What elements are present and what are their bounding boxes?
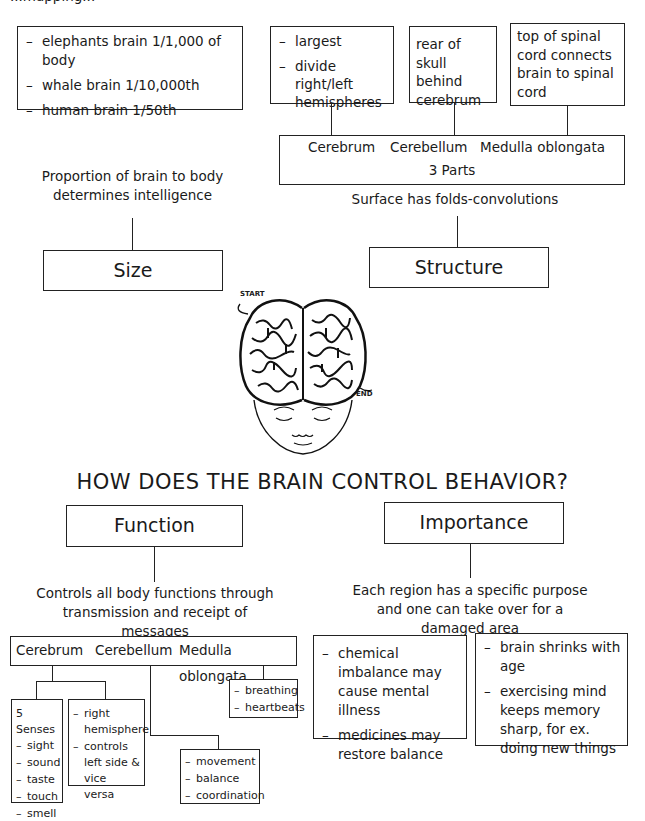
senses-box: 5 Senses sight sound taste touch smell xyxy=(11,699,63,803)
function-note: Controls all body functions through tran… xyxy=(30,584,280,641)
partial-title: ...mapping... xyxy=(10,0,95,6)
brain-illustration: START END xyxy=(228,288,378,460)
aging-list: brain shrinks with age exercising mind k… xyxy=(482,638,621,758)
connector xyxy=(454,103,455,136)
cerebrum-notes-box: largest divide right/left hemispheres xyxy=(270,26,394,104)
aging-box: brain shrinks with age exercising mind k… xyxy=(475,633,628,746)
list-item: brain shrinks with age xyxy=(482,638,621,676)
part-medulla: Medulla oblongata xyxy=(480,138,605,157)
list-item: taste xyxy=(16,772,58,788)
list-item: smell xyxy=(16,806,58,821)
surface-note: Surface has folds-convolutions xyxy=(345,190,565,209)
part-cerebellum: Cerebellum xyxy=(95,637,172,663)
list-item: exercising mind keeps memory sharp, for … xyxy=(482,682,621,758)
chemical-box: chemical imbalance may cause mental illn… xyxy=(313,635,467,739)
medulla-functions-box: breathing heartbeats xyxy=(229,679,298,718)
cerebrum-notes-list: largest divide right/left hemispheres xyxy=(277,32,387,111)
part-cerebrum: Cerebrum xyxy=(308,138,375,157)
connector xyxy=(36,681,106,682)
list-item: right hemisphere xyxy=(73,706,140,738)
list-item: sound xyxy=(16,755,58,771)
list-item: heartbeats xyxy=(234,700,293,716)
list-item: balance xyxy=(185,771,255,787)
structure-node: Structure xyxy=(369,247,549,288)
connector xyxy=(567,106,568,136)
connector xyxy=(218,735,219,750)
end-label: END xyxy=(356,390,372,398)
cerebellum-list: movement balance coordination xyxy=(185,754,255,804)
brain-maze-icon xyxy=(228,288,378,460)
list-item: chemical imbalance may cause mental illn… xyxy=(320,644,460,720)
list-item: elephants brain 1/1,000 of body xyxy=(24,32,236,70)
list-item: sight xyxy=(16,738,58,754)
chemical-list: chemical imbalance may cause mental illn… xyxy=(320,644,460,764)
connector xyxy=(36,681,37,700)
connector xyxy=(132,218,133,251)
importance-note: Each region has a specific purpose and o… xyxy=(345,581,595,638)
list-item: controls left side & vice versa xyxy=(73,739,140,803)
connector xyxy=(263,666,264,680)
connector xyxy=(150,735,218,736)
function-node: Function xyxy=(66,505,243,547)
cerebellum-note-box: rear of skull behind cerebrum xyxy=(409,26,497,103)
list-item: coordination xyxy=(185,788,255,804)
connector xyxy=(470,544,471,578)
size-note: Proportion of brain to body determines i… xyxy=(35,167,230,205)
start-label: START xyxy=(240,290,265,298)
senses-heading: 5 Senses xyxy=(16,706,58,738)
size-examples-box: elephants brain 1/1,000 of body whale br… xyxy=(17,26,243,110)
connector xyxy=(150,666,151,735)
connector xyxy=(154,547,155,582)
medulla-list: breathing heartbeats xyxy=(234,683,293,716)
cerebellum-functions-box: movement balance coordination xyxy=(180,749,260,804)
part-cerebellum: Cerebellum xyxy=(390,138,467,157)
connector xyxy=(457,216,458,249)
list-item: largest xyxy=(277,32,387,51)
hemisphere-box: right hemisphere controls left side & vi… xyxy=(68,699,145,786)
list-item: whale brain 1/10,000th xyxy=(24,76,236,95)
hemisphere-list: right hemisphere controls left side & vi… xyxy=(73,706,140,803)
part-cerebrum: Cerebrum xyxy=(16,637,83,663)
list-item: human brain 1/50th xyxy=(24,101,236,120)
function-parts-box: Cerebrum Cerebellum Medulla oblongata xyxy=(10,636,297,666)
connector xyxy=(105,681,106,700)
size-node: Size xyxy=(43,250,223,291)
list-item: medicines may restore balance xyxy=(320,726,460,764)
list-item: movement xyxy=(185,754,255,770)
list-item: divide right/left hemispheres xyxy=(277,57,387,111)
three-parts-box: Cerebrum Cerebellum Medulla oblongata 3 … xyxy=(279,135,625,185)
main-question: HOW DOES THE BRAIN CONTROL BEHAVIOR? xyxy=(0,470,645,494)
size-examples-list: elephants brain 1/1,000 of body whale br… xyxy=(24,32,236,120)
three-parts-label: 3 Parts xyxy=(280,161,624,180)
list-item: breathing xyxy=(234,683,293,699)
medulla-note-box: top of spinal cord connects brain to spi… xyxy=(510,23,625,106)
connector xyxy=(331,104,332,136)
connector xyxy=(52,666,53,681)
importance-node: Importance xyxy=(384,502,564,544)
senses-list: sight sound taste touch smell xyxy=(16,738,58,821)
list-item: touch xyxy=(16,789,58,805)
